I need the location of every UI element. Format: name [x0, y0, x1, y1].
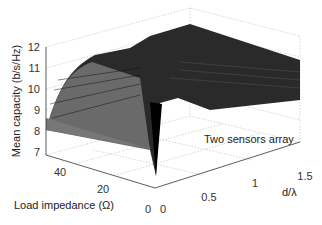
- annotation-two-sensors: Two sensors array: [204, 133, 294, 145]
- mean-capacity-surface: [46, 24, 300, 176]
- x-tick-1.5: 1.5: [297, 170, 312, 182]
- z-tick-10: 10: [28, 83, 40, 95]
- z-tick-11: 11: [29, 62, 40, 74]
- z-axis-label: Mean capacity (b/s/Hz): [10, 45, 22, 157]
- y-tick-40: 40: [54, 166, 66, 178]
- x-axis-label: d/λ: [282, 186, 297, 198]
- z-tick-9: 9: [34, 104, 40, 116]
- y-axis-label: Load impedance (Ω): [14, 199, 114, 211]
- z-tick-8: 8: [34, 125, 40, 137]
- x-tick-0.5: 0.5: [201, 191, 216, 203]
- y-tick-20: 20: [97, 183, 109, 195]
- y-tick-0: 0: [145, 203, 151, 215]
- x-tick-1: 1: [252, 177, 258, 189]
- z-axis-ticks: 12 11 10 9 8 7: [28, 41, 40, 158]
- z-tick-7: 7: [34, 146, 40, 158]
- x-tick-0: 0: [160, 203, 166, 215]
- surface-plot: 12 11 10 9 8 7 40 20 0 0 0.5 1 1.5 Mean …: [0, 0, 322, 225]
- z-tick-12: 12: [28, 41, 40, 53]
